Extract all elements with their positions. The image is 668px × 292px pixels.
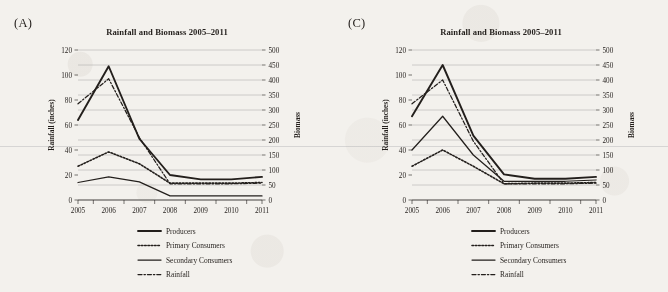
left-axis-tick-label: 60: [65, 122, 73, 130]
right-axis-tick-label: 200: [603, 137, 614, 145]
x-axis: 2005200620072008200920102011: [71, 200, 270, 215]
right-axis: 050100150200250300350400450500: [596, 47, 614, 205]
right-axis-tick-label: 500: [269, 47, 280, 55]
right-axis-tick-label: 0: [603, 197, 607, 205]
series-line-rainfall: [412, 80, 596, 184]
left-axis-tick-label: 20: [65, 172, 73, 180]
right-axis-tick-label: 150: [269, 152, 280, 160]
panel-c: (C) Rainfall and Biomass 2005–2011 02040…: [334, 0, 668, 292]
gridlines: [412, 50, 596, 200]
left-axis-tick-label: 80: [65, 97, 73, 105]
legend-label: Rainfall: [500, 270, 524, 279]
left-axis-tick-label: 60: [399, 122, 407, 130]
series-group: [78, 66, 262, 196]
right-axis-tick-label: 400: [269, 77, 280, 85]
series-line-rainfall: [78, 79, 262, 184]
legend-label: Secondary Consumers: [166, 256, 232, 265]
right-axis-tick-label: 150: [603, 152, 614, 160]
legend: ProducersPrimary ConsumersSecondary Cons…: [472, 227, 566, 279]
left-axis-tick-label: 120: [61, 47, 72, 55]
left-axis-tick-label: 40: [399, 147, 407, 155]
x-axis-tick-label: 2005: [405, 207, 420, 215]
x-axis-tick-label: 2006: [435, 207, 450, 215]
left-axis-tick-label: 20: [399, 172, 407, 180]
x-axis-tick-label: 2011: [255, 207, 270, 215]
left-axis: 020406080100120: [395, 47, 412, 205]
right-axis-tick-label: 100: [603, 167, 614, 175]
left-axis: 020406080100120: [61, 47, 78, 205]
legend-label: Primary Consumers: [166, 241, 225, 250]
legend-label: Producers: [166, 227, 196, 236]
x-axis: 2005200620072008200920102011: [405, 200, 604, 215]
legend-label: Secondary Consumers: [500, 256, 566, 265]
x-axis-tick-label: 2005: [71, 207, 86, 215]
legend-label: Producers: [500, 227, 530, 236]
right-axis-tick-label: 300: [603, 107, 614, 115]
figure-panels: (A) Rainfall and Biomass 2005–2011 02040…: [0, 0, 668, 292]
right-axis-tick-label: 250: [603, 122, 614, 130]
right-axis-tick-label: 50: [603, 182, 611, 190]
legend: ProducersPrimary ConsumersSecondary Cons…: [138, 227, 232, 279]
legend-label: Primary Consumers: [500, 241, 559, 250]
series-group: [412, 65, 596, 184]
right-axis-tick-label: 250: [269, 122, 280, 130]
series-line-producers: [78, 66, 262, 179]
right-axis-tick-label: 450: [603, 62, 614, 70]
right-axis-tick-label: 50: [269, 182, 277, 190]
x-axis-tick-label: 2009: [527, 207, 542, 215]
left-axis-tick-label: 100: [395, 72, 406, 80]
right-axis-tick-label: 300: [269, 107, 280, 115]
right-axis-tick-label: 0: [269, 197, 273, 205]
x-axis-tick-label: 2009: [193, 207, 208, 215]
right-axis-title: Biomass: [293, 112, 302, 138]
right-axis-tick-label: 100: [269, 167, 280, 175]
left-axis-tick-label: 40: [65, 147, 73, 155]
x-axis-tick-label: 2006: [101, 207, 116, 215]
left-axis-title: Rainfall (inches): [47, 99, 56, 151]
x-axis-tick-label: 2011: [589, 207, 604, 215]
panel-a: (A) Rainfall and Biomass 2005–2011 02040…: [0, 0, 334, 292]
x-axis-tick-label: 2010: [224, 207, 239, 215]
right-axis-tick-label: 350: [269, 92, 280, 100]
x-axis-tick-label: 2007: [466, 207, 481, 215]
series-line-secondary-consumers: [412, 116, 596, 181]
legend-label: Rainfall: [166, 270, 190, 279]
right-axis-tick-label: 400: [603, 77, 614, 85]
right-axis-tick-label: 350: [603, 92, 614, 100]
right-axis-tick-label: 450: [269, 62, 280, 70]
x-axis-tick-label: 2010: [558, 207, 573, 215]
panel-a-plot: 020406080100120Rainfall (inches)05010015…: [0, 0, 334, 292]
x-axis-tick-label: 2008: [497, 207, 512, 215]
left-axis-title: Rainfall (inches): [381, 99, 390, 151]
right-axis: 050100150200250300350400450500: [262, 47, 280, 205]
left-axis-tick-label: 80: [399, 97, 407, 105]
left-axis-tick-label: 0: [68, 197, 72, 205]
x-axis-tick-label: 2007: [132, 207, 147, 215]
right-axis-title: Biomass: [627, 112, 636, 138]
left-axis-tick-label: 100: [61, 72, 72, 80]
left-axis-tick-label: 120: [395, 47, 406, 55]
left-axis-tick-label: 0: [402, 197, 406, 205]
right-axis-tick-label: 200: [269, 137, 280, 145]
x-axis-tick-label: 2008: [163, 207, 178, 215]
right-axis-tick-label: 500: [603, 47, 614, 55]
panel-c-plot: 020406080100120Rainfall (inches)05010015…: [334, 0, 668, 292]
